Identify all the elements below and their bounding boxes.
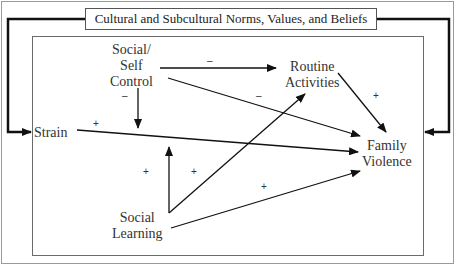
node-line: Self <box>110 58 153 74</box>
sign-control-to-strain-path: – <box>122 90 128 101</box>
sign-learning-to-routine: + <box>191 166 197 177</box>
node-routine-activities: Routine Activities <box>285 59 339 91</box>
sign-learning-to-violence: + <box>261 181 267 192</box>
sign-routine-to-violence: + <box>373 90 379 101</box>
node-line: Activities <box>285 75 339 91</box>
node-line: Social <box>112 210 163 226</box>
node-social-learning: Social Learning <box>112 210 163 242</box>
family-violence-theory-diagram: Cultural and Subcultural Norms, Values, … <box>0 0 457 268</box>
node-social-self-control: Social/ Self Control <box>110 42 153 90</box>
sign-control-to-violence: – <box>256 90 262 101</box>
node-strain: Strain <box>34 125 67 141</box>
sign-strain-to-violence: + <box>93 118 99 129</box>
node-line: Strain <box>34 125 67 140</box>
sign-learning-to-strain-path: + <box>143 166 149 177</box>
node-line: Learning <box>112 226 163 242</box>
node-family-violence: Family Violence <box>362 138 412 170</box>
node-line: Social/ <box>110 42 153 58</box>
culture-norms-label: Cultural and Subcultural Norms, Values, … <box>95 11 368 27</box>
node-line: Routine <box>285 59 339 75</box>
sign-control-to-routine: – <box>207 55 213 66</box>
culture-norms-box: Cultural and Subcultural Norms, Values, … <box>85 8 377 30</box>
node-line: Family <box>362 138 412 154</box>
node-line: Control <box>110 74 153 90</box>
node-line: Violence <box>362 154 412 170</box>
